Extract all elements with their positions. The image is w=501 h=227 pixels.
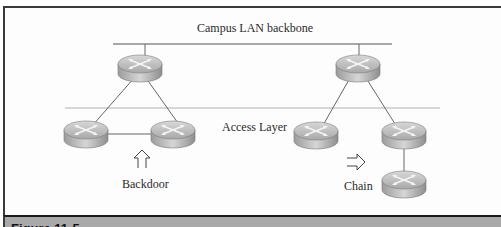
router-icon: [382, 171, 426, 198]
router-icon: [151, 121, 195, 148]
up-arrow-icon: [134, 150, 150, 168]
router-icon: [336, 55, 380, 82]
router-icon: [294, 122, 338, 149]
access-layer-label: Access Layer: [222, 120, 287, 135]
chain-label: Chain: [344, 179, 373, 194]
backdoor-label: Backdoor: [122, 177, 169, 192]
router-icon: [118, 55, 162, 82]
router-icon: [382, 122, 426, 149]
backbone-label: Campus LAN backbone: [197, 21, 313, 36]
figure-caption: Figure 11-5.: [11, 221, 83, 227]
right-arrow-icon: [347, 154, 365, 170]
figure-caption-band: Figure 11-5.: [3, 215, 501, 227]
router-icon: [64, 121, 108, 148]
